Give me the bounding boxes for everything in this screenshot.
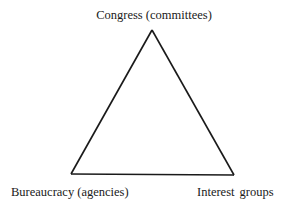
triangle-graphic: [0, 0, 289, 208]
edge-congress-bureaucracy: [71, 30, 152, 174]
iron-triangle-diagram: Congress (committees) Bureaucracy (agenc…: [0, 0, 289, 208]
node-label-bureaucracy: Bureaucracy (agencies): [11, 185, 129, 199]
edge-bureaucracy-interest-groups: [71, 174, 234, 175]
edge-interest-groups-congress: [152, 30, 234, 175]
node-label-interest-groups: Interest groups: [197, 185, 274, 199]
node-label-congress: Congress (committees): [96, 8, 212, 22]
